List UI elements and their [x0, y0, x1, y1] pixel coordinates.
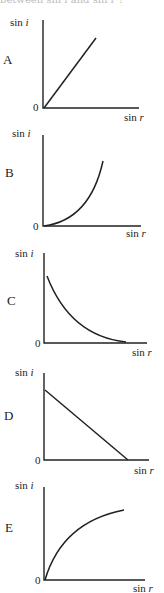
x-axis-label: sin r: [124, 111, 145, 123]
graph-b: sin i B 0 sin r: [5, 127, 147, 239]
graph-letter: E: [5, 520, 13, 535]
graphs-figure: sin i A 0 sin r sin i B 0 sin r sin i C …: [0, 0, 164, 593]
graph-c: sin i C 0 sin r: [7, 247, 153, 358]
origin-label: 0: [33, 101, 39, 113]
x-axis-label: sin r: [133, 582, 154, 593]
origin-label: 0: [33, 220, 39, 232]
y-axis-label: sin i: [15, 366, 34, 378]
graph-letter: D: [4, 408, 13, 423]
graph-d: sin i D 0 sin r: [4, 366, 155, 476]
origin-label: 0: [35, 574, 41, 586]
graph-letter: A: [3, 52, 13, 67]
plot-curve: [44, 161, 103, 226]
origin-label: 0: [35, 454, 41, 466]
plot-line: [44, 38, 96, 108]
graph-a: sin i A 0 sin r: [3, 16, 145, 123]
axes: [44, 253, 147, 343]
x-axis-label: sin r: [134, 464, 155, 476]
x-axis-label: sin r: [132, 346, 153, 358]
axes: [43, 20, 139, 108]
plot-curve: [45, 510, 124, 580]
y-axis-label: sin i: [10, 16, 29, 28]
origin-label: 0: [35, 337, 41, 349]
graph-e: sin i E 0 sin r: [5, 479, 154, 593]
x-axis-label: sin r: [126, 227, 147, 239]
axes: [44, 373, 149, 460]
plot-curve: [47, 276, 126, 342]
y-axis-label: sin i: [15, 247, 34, 259]
axes: [43, 135, 141, 226]
graph-letter: B: [5, 165, 14, 180]
y-axis-label: sin i: [15, 479, 34, 491]
y-axis-label: sin i: [12, 127, 31, 139]
axes: [44, 487, 145, 580]
plot-line: [45, 390, 128, 460]
graph-letter: C: [7, 293, 16, 308]
